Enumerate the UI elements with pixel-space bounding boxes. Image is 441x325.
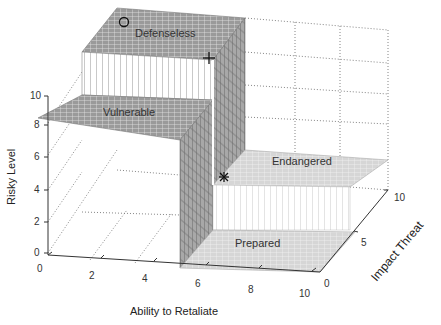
x-tick-2: 2 [89,270,95,281]
label-vulnerable: Vulnerable [103,106,155,118]
marker-star [219,172,229,182]
y-tick-5: 5 [361,237,367,248]
y-tick-10: 10 [394,192,405,203]
y-tick-0: 0 [324,278,330,289]
x-tick-6: 6 [195,278,201,289]
z-tick-8: 8 [34,119,40,130]
label-endangered: Endangered [272,155,332,167]
z-tick-2: 2 [34,216,40,227]
z-tick-0: 0 [34,247,40,258]
x-tick-10: 10 [299,288,310,299]
z-tick-4: 4 [34,184,40,195]
x-tick-8: 8 [248,284,254,295]
z-tick-10: 10 [30,90,41,101]
label-defenseless: Defenseless [135,27,196,39]
x-tick-0: 0 [37,263,43,274]
z-tick-6: 6 [34,151,40,162]
x-tick-4: 4 [142,273,148,284]
z-axis-label: Risky Level [5,149,17,205]
x-axis-label: Ability to Retaliate [130,305,218,317]
label-prepared: Prepared [235,237,280,249]
